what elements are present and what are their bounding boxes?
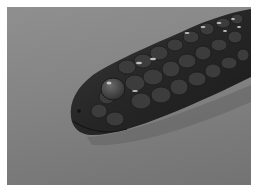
snake-nostril xyxy=(77,109,81,113)
snake-eye xyxy=(101,78,125,100)
snake-photo xyxy=(7,7,251,185)
snake-illustration xyxy=(7,7,251,185)
